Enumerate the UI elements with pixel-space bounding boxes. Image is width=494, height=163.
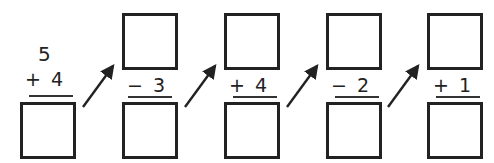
arrows-layer [0,0,494,163]
arrow-icon-3 [287,66,317,107]
arrow-icon-1 [83,66,113,107]
arrow-icon-2 [185,66,215,107]
arrow-icon-4 [388,66,418,107]
